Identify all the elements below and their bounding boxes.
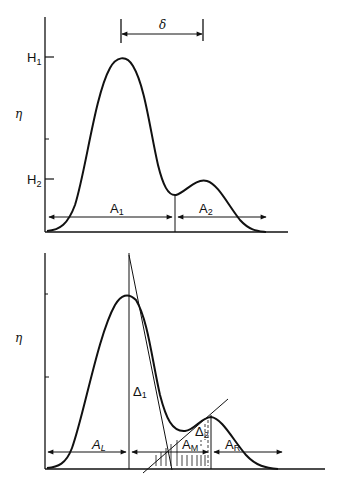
bottom-curve — [47, 295, 278, 469]
a2-label: A2 — [199, 201, 213, 217]
tangent-right — [143, 399, 228, 473]
chromatogram-diagram: H1 H2 η δ A1 A2 η — [0, 0, 341, 484]
top-curve — [47, 58, 266, 232]
h2-label: H2 — [27, 172, 41, 189]
delta2-label: Δ2 — [195, 424, 209, 440]
top-eta-label: η — [15, 107, 23, 121]
delta1-label: Δ1 — [133, 384, 147, 400]
bottom-eta-label: η — [15, 331, 23, 345]
tangent-left — [129, 255, 172, 470]
ar-label: AR — [225, 437, 241, 453]
am-label: AM — [182, 437, 198, 453]
a1-label: A1 — [110, 201, 124, 217]
h1-label: H1 — [27, 50, 41, 67]
bottom-panel: η AL AM — [15, 253, 325, 473]
al-label: AL — [91, 437, 106, 453]
top-panel: H1 H2 η δ A1 A2 — [15, 17, 288, 232]
delta-label: δ — [159, 18, 166, 32]
